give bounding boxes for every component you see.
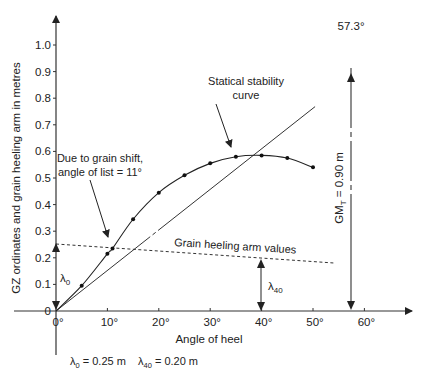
y-tick-label: 0.2 (35, 252, 51, 264)
curve-point (111, 246, 115, 250)
angle-57-label: 57.3° (338, 20, 365, 32)
curve-point (131, 217, 135, 221)
y-tick-label: 0.3 (35, 225, 51, 237)
stat-curve-label-1: Statical stability (208, 75, 284, 87)
curve-point (311, 165, 315, 169)
gm-arrow-up-icon (347, 73, 355, 82)
y-tick-label: 0.4 (35, 199, 52, 211)
x-tick-label: 30° (204, 316, 221, 328)
lambda40-arrow-up-icon (257, 259, 265, 268)
lambda0-label: λ0 (60, 272, 71, 287)
y-tick-label: 0.1 (35, 278, 51, 290)
stability-diagram: 00.10.20.30.40.50.60.70.80.91.0 0°10°20°… (0, 0, 428, 379)
footer-lambda40: λ40 = 0.20 m (138, 355, 198, 370)
curve-point (157, 191, 161, 195)
gm-tangent-line (56, 57, 378, 311)
y-tick-label: 1.0 (35, 39, 51, 51)
lambda40-label: λ40 (268, 280, 283, 295)
curve-point (80, 284, 84, 288)
curve-point (208, 161, 212, 165)
x-tick-label: 60° (358, 316, 375, 328)
x-tick-label: 50° (306, 316, 323, 328)
x-axis-label: Angle of heel (175, 333, 242, 345)
x-tick-label: 20° (152, 316, 169, 328)
x-tick-label: 10° (101, 316, 118, 328)
curve-point (285, 156, 289, 160)
grain-shift-label-1: Due to grain shift, (57, 152, 143, 164)
x-tick-label: 0° (53, 316, 64, 328)
curve-point (260, 153, 264, 157)
lambda40-arrow-down-icon (257, 302, 265, 311)
y-tick-label: 0 (45, 305, 51, 317)
y-tick-label: 0.7 (35, 119, 51, 131)
curve-point (234, 155, 238, 159)
footer-lambda0: λ0 = 0.25 m (70, 355, 126, 370)
grain-shift-pointer (90, 180, 108, 237)
y-tick-label: 0.8 (35, 92, 51, 104)
stat-curve-pointer (216, 104, 231, 147)
x-tick-label: 40° (255, 316, 272, 328)
curve-point (183, 173, 187, 177)
y-axis-label: GZ ordinates and grain heeling arm in me… (10, 62, 22, 294)
curve-point (105, 252, 109, 256)
y-ticks: 00.10.20.30.40.50.60.70.80.91.0 (35, 39, 56, 317)
grain-shift-label-2: angle of list = 11° (58, 166, 142, 178)
y-tick-label: 0.6 (35, 145, 51, 157)
stat-curve-label-2: curve (233, 89, 260, 101)
y-tick-label: 0.5 (35, 172, 51, 184)
gm-label: GMT = 0.90 m (333, 152, 348, 224)
heeling-arm-label: Grain heeling arm values (174, 236, 297, 255)
gm-arrow-down-icon (347, 301, 355, 310)
y-tick-label: 0.9 (35, 66, 51, 78)
